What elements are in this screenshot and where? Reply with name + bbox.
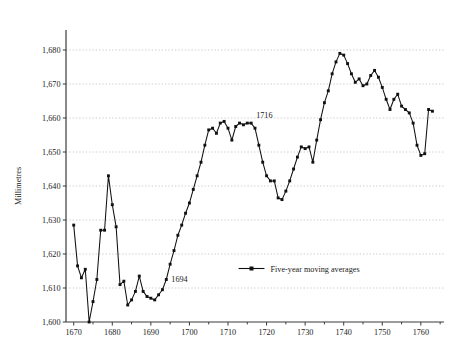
data-point [416, 144, 419, 147]
x-tick-label-1700: 1700 [181, 328, 197, 337]
y-tick-label-1610: 1,610 [42, 284, 60, 293]
data-point [265, 174, 268, 177]
data-point [300, 145, 303, 148]
data-point [119, 283, 122, 286]
data-point [365, 83, 368, 86]
x-tick-label-1720: 1720 [258, 328, 274, 337]
x-tick-label-1690: 1690 [143, 328, 159, 337]
data-point [269, 179, 272, 182]
data-point [423, 152, 426, 155]
data-point [311, 161, 314, 164]
data-point [107, 174, 110, 177]
y-axis-title-text: Millimetres [14, 167, 23, 205]
data-point [250, 122, 253, 125]
data-point [227, 127, 230, 130]
data-point [315, 139, 318, 142]
data-point [389, 108, 392, 111]
data-point [338, 52, 341, 55]
x-tick-label-1760: 1760 [413, 328, 429, 337]
y-tick-label-1620: 1,620 [42, 250, 60, 259]
data-point [138, 275, 141, 278]
data-point [88, 321, 91, 324]
data-point [396, 93, 399, 96]
data-point [381, 86, 384, 89]
data-point [223, 120, 226, 123]
data-point [161, 288, 164, 291]
data-point [304, 147, 307, 150]
x-tick-label-1730: 1730 [297, 328, 313, 337]
data-point [165, 278, 168, 281]
data-point [111, 203, 114, 206]
x-tick-label-1680: 1680 [104, 328, 120, 337]
data-point [215, 132, 218, 135]
annotation-1716: 1716 [256, 111, 272, 120]
data-point [358, 77, 361, 80]
data-point [292, 168, 295, 171]
data-point [95, 278, 98, 281]
data-point [281, 198, 284, 201]
data-point [419, 154, 422, 157]
data-point [257, 144, 260, 147]
data-point [246, 122, 249, 125]
data-point [234, 125, 237, 128]
y-axis-title: Millimetres [14, 167, 23, 205]
data-point [203, 144, 206, 147]
data-point [211, 127, 214, 130]
data-point [319, 118, 322, 121]
annotation-1694: 1694 [171, 275, 187, 284]
data-point [308, 145, 311, 148]
data-point [385, 98, 388, 101]
data-point [331, 72, 334, 75]
data-point [196, 174, 199, 177]
data-point [350, 72, 353, 75]
y-tick-label-1670: 1,670 [42, 80, 60, 89]
data-point [149, 297, 152, 300]
data-point [84, 268, 87, 271]
data-point [377, 76, 380, 79]
data-point [126, 304, 129, 307]
data-point [346, 62, 349, 65]
data-point [103, 229, 106, 232]
x-tick-label-1710: 1710 [220, 328, 236, 337]
data-point [354, 81, 357, 84]
data-point [92, 300, 95, 303]
data-point [362, 84, 365, 87]
legend-label: Five-year moving averages [271, 265, 360, 274]
data-point [142, 290, 145, 293]
data-point [273, 179, 276, 182]
data-point [146, 295, 149, 298]
data-point [392, 98, 395, 101]
data-point [335, 60, 338, 63]
data-point [188, 202, 191, 205]
gridlines-group [66, 50, 444, 288]
x-tick-label-1750: 1750 [374, 328, 390, 337]
data-point [180, 224, 183, 227]
data-point [412, 122, 415, 125]
data-point [373, 69, 376, 72]
legend: Five-year moving averages [239, 265, 360, 274]
data-point [115, 225, 118, 228]
data-point [122, 280, 125, 283]
data-point [427, 108, 430, 111]
y-tick-label-1680: 1,680 [42, 46, 60, 55]
data-point [369, 74, 372, 77]
data-point [288, 179, 291, 182]
data-point [157, 293, 160, 296]
data-point [176, 234, 179, 237]
data-point [76, 264, 79, 267]
data-point [130, 298, 133, 301]
data-point [184, 212, 187, 215]
data-point [277, 196, 280, 199]
data-point [134, 290, 137, 293]
y-tick-label-1630: 1,630 [42, 216, 60, 225]
series-line-0 [74, 53, 433, 322]
data-point [192, 188, 195, 191]
data-point [342, 54, 345, 57]
data-point [238, 122, 241, 125]
x-tick-labels: 1670168016901700171017201730174017501760 [66, 328, 430, 337]
data-point [261, 161, 264, 164]
data-point [296, 156, 299, 159]
data-point [219, 122, 222, 125]
y-tick-label-1640: 1,640 [42, 182, 60, 191]
x-tick-label-1740: 1740 [336, 328, 352, 337]
